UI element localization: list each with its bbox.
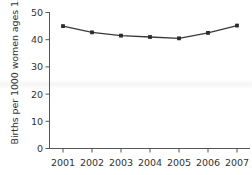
y-tick-label-20: 20 xyxy=(31,89,43,100)
data-point-2001 xyxy=(61,24,65,28)
y-tick-label-40: 40 xyxy=(31,34,43,45)
x-tick-label-2003: 2003 xyxy=(109,157,133,168)
x-tick-label-2002: 2002 xyxy=(80,157,104,168)
x-tick-label-2004: 2004 xyxy=(138,157,162,168)
x-tick-label-2006: 2006 xyxy=(196,157,220,168)
y-tick-label-50: 50 xyxy=(31,7,43,18)
data-point-2002 xyxy=(90,30,94,34)
data-point-2006 xyxy=(206,31,210,35)
x-tick-label-2007: 2007 xyxy=(225,157,249,168)
line-chart-plot: 0 10 20 30 40 50 2001 2002 2003 2004 200… xyxy=(0,0,252,175)
x-axis-tick-labels: 2001 2002 2003 2004 2005 2006 2007 xyxy=(51,157,249,168)
y-axis-tick-labels: 0 10 20 30 40 50 xyxy=(31,7,43,154)
data-point-2004 xyxy=(148,35,152,39)
y-axis-ticks xyxy=(46,13,50,149)
x-tick-label-2005: 2005 xyxy=(167,157,191,168)
y-tick-label-10: 10 xyxy=(31,116,43,127)
y-tick-label-30: 30 xyxy=(31,61,43,72)
chart-container: Births per 1000 women ages 15-19 0 10 20… xyxy=(0,0,252,175)
x-axis-ticks xyxy=(63,149,237,153)
data-point-2005 xyxy=(177,36,181,40)
data-point-2007 xyxy=(235,24,239,28)
data-point-2003 xyxy=(119,34,123,38)
y-tick-label-0: 0 xyxy=(37,143,43,154)
x-tick-label-2001: 2001 xyxy=(51,157,75,168)
